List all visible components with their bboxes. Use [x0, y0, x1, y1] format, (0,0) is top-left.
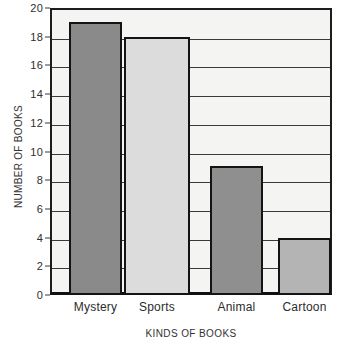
- y-tick-label-4: 4: [37, 232, 43, 244]
- y-tick-label-14: 14: [30, 88, 43, 100]
- y-tick-label-6: 6: [37, 203, 43, 215]
- bar-sports: [124, 37, 190, 295]
- y-tick-label-16: 16: [30, 59, 43, 71]
- y-tick-label-20: 20: [30, 2, 43, 14]
- y-tick-label-12: 12: [30, 117, 43, 129]
- gridline-0: [52, 297, 330, 298]
- bar-animal: [210, 166, 263, 295]
- y-tick-label-8: 8: [37, 174, 43, 186]
- category-label-animal: Animal: [210, 300, 263, 314]
- y-tick-label-10: 10: [30, 146, 43, 158]
- y-axis-ticks: 02468101214161820: [0, 8, 50, 295]
- bar-mystery: [69, 22, 122, 295]
- y-tick-label-2: 2: [37, 260, 43, 272]
- y-tick-label-18: 18: [30, 31, 43, 43]
- category-label-cartoon: Cartoon: [278, 300, 331, 314]
- bar-chart: NUMBER OF BOOKS 02468101214161820 Myster…: [0, 0, 343, 347]
- x-axis-title: KINDS OF BOOKS: [50, 328, 332, 339]
- category-label-sports: Sports: [124, 300, 190, 314]
- category-label-mystery: Mystery: [69, 300, 122, 314]
- bars-layer: [50, 8, 332, 295]
- x-axis-category-labels: MysterySportsAnimalCartoon: [50, 300, 332, 320]
- y-tick-label-0: 0: [37, 289, 43, 301]
- bar-cartoon: [278, 238, 331, 295]
